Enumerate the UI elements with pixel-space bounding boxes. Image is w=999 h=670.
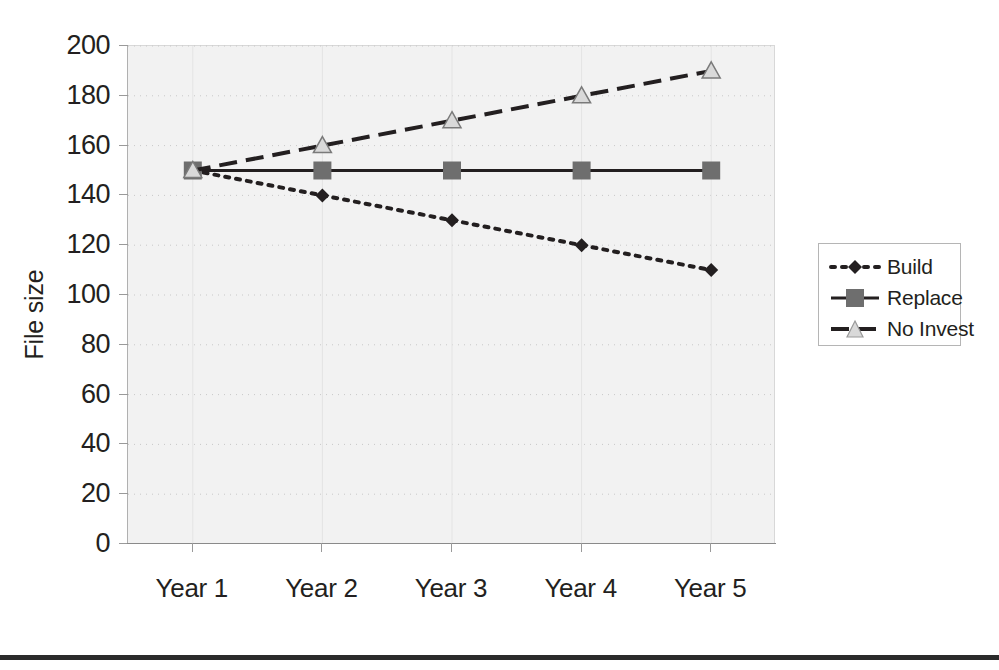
y-tick-label: 180: [48, 81, 110, 108]
y-tick-mark: [119, 394, 128, 395]
data-point-marker: [445, 213, 459, 227]
plot-canvas: [128, 46, 776, 544]
legend-label: Replace: [887, 287, 963, 308]
y-tick-mark: [119, 95, 128, 96]
y-tick-label: 200: [48, 32, 110, 59]
y-tick-mark: [119, 45, 128, 46]
chart-legend: BuildReplaceNo Invest: [818, 243, 961, 346]
legend-swatch-icon: [829, 256, 881, 278]
legend-label: No Invest: [887, 318, 974, 339]
y-tick-label: 20: [48, 480, 110, 507]
data-point-marker: [702, 162, 720, 180]
y-tick-label: 100: [48, 281, 110, 308]
y-tick-mark: [119, 443, 128, 444]
y-tick-mark: [119, 244, 128, 245]
x-tick-mark: [710, 543, 711, 552]
x-tick-mark: [192, 543, 193, 552]
y-tick-mark: [119, 145, 128, 146]
data-point-marker: [313, 162, 331, 180]
data-point-marker: [315, 188, 329, 202]
data-point-marker: [575, 238, 589, 252]
legend-label: Build: [887, 256, 933, 277]
y-tick-mark: [119, 344, 128, 345]
legend-swatch-icon: [829, 287, 881, 309]
x-tick-mark: [581, 543, 582, 552]
data-point-marker: [443, 162, 461, 180]
y-tick-label: 120: [48, 231, 110, 258]
data-point-marker: [704, 263, 718, 277]
y-tick-mark: [119, 194, 128, 195]
y-tick-mark: [119, 294, 128, 295]
plot-area: [127, 45, 775, 543]
y-tick-label: 0: [48, 530, 110, 557]
y-tick-label: 40: [48, 430, 110, 457]
y-tick-label: 140: [48, 181, 110, 208]
bottom-divider: [0, 655, 999, 660]
legend-swatch-icon: [829, 318, 881, 340]
legend-item-replace[interactable]: Replace: [819, 282, 960, 313]
y-tick-label: 160: [48, 131, 110, 158]
y-axis-title: File size: [20, 215, 49, 415]
legend-item-no-invest[interactable]: No Invest: [819, 313, 960, 344]
data-point-marker: [573, 162, 591, 180]
x-tick-label: Year 5: [630, 575, 790, 601]
x-tick-mark: [321, 543, 322, 552]
data-point-marker: [702, 62, 720, 78]
y-tick-label: 80: [48, 330, 110, 357]
legend-item-build[interactable]: Build: [819, 251, 960, 282]
x-tick-mark: [451, 543, 452, 552]
data-point-marker: [573, 87, 591, 103]
y-tick-label: 60: [48, 380, 110, 407]
line-chart: 020406080100120140160180200 Year 1Year 2…: [0, 0, 999, 670]
y-axis-tick-labels: 020406080100120140160180200: [48, 0, 110, 670]
y-tick-mark: [119, 493, 128, 494]
